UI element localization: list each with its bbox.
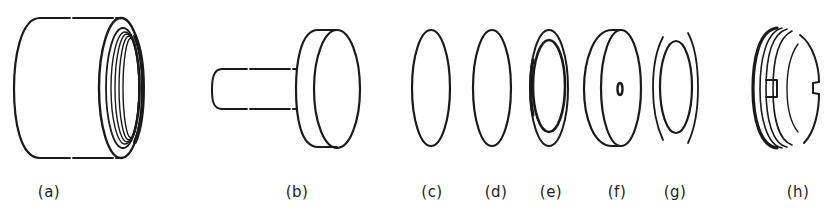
label-part-b: (b) <box>286 183 309 201</box>
exploded-view-diagram <box>0 0 834 211</box>
label-part-f: (f) <box>608 183 627 201</box>
label-part-a: (a) <box>38 183 60 201</box>
part-e-ring <box>530 30 568 146</box>
part-a-threaded-housing <box>14 18 143 158</box>
part-b-plunger <box>212 30 360 148</box>
part-h-retaining-ring <box>753 28 819 148</box>
part-d-disc <box>473 30 511 146</box>
part-g-split-ring <box>653 33 698 143</box>
label-part-h: (h) <box>787 183 810 201</box>
part-f-thick-disc <box>584 30 641 146</box>
label-part-c: (c) <box>421 183 442 201</box>
label-part-d: (d) <box>485 183 508 201</box>
part-c-disc <box>412 30 450 146</box>
label-part-g: (g) <box>664 183 687 201</box>
label-part-e: (e) <box>540 183 562 201</box>
